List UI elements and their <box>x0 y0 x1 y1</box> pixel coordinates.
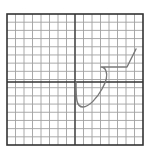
plotted-curve <box>76 49 136 107</box>
grid-graph <box>0 0 144 151</box>
